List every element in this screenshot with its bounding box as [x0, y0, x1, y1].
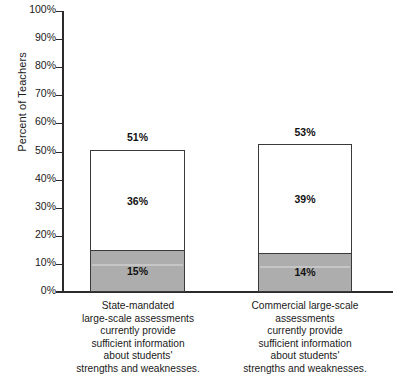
bar-segment-lower-1[interactable]: 15%: [90, 250, 185, 292]
x-category-label-2-line-5: about students': [219, 350, 391, 363]
bar-group-1[interactable]: 51% 36% 15%: [90, 0, 185, 300]
bar-chart: Percent of Teachers 100% 90% 80% 70% 60%…: [0, 0, 395, 379]
y-tick-label: 20%: [35, 228, 56, 240]
bar-segment-lower-2[interactable]: 14%: [258, 253, 352, 292]
x-category-label-1-line-3: currently provide: [52, 325, 224, 338]
bar-segment-upper-1[interactable]: 36%: [90, 150, 185, 251]
y-tick-mark: [56, 95, 62, 96]
x-category-label-2-line-3: currently provide: [219, 325, 391, 338]
y-tick-mark: [56, 123, 62, 124]
y-tick-mark: [56, 236, 62, 237]
y-tick-mark: [56, 208, 62, 209]
y-tick-label: 0%: [41, 284, 56, 296]
y-tick-mark: [56, 67, 62, 68]
y-axis-line: [62, 11, 64, 293]
x-category-label-1-line-2: large-scale assessments: [52, 313, 224, 326]
bar-total-label-1: 51%: [90, 131, 185, 143]
y-tick-label: 80%: [35, 59, 56, 71]
y-tick-label: 50%: [35, 144, 56, 156]
bar-segment-upper-2[interactable]: 39%: [258, 144, 352, 254]
bar-segment-label-upper-1: 36%: [91, 194, 184, 206]
y-tick-mark: [56, 264, 62, 265]
y-tick-mark: [56, 292, 62, 293]
x-category-label-2-line-1: Commercial large-scale: [219, 300, 391, 313]
x-category-label-2-line-2: assessments: [219, 313, 391, 326]
x-category-label-1-line-6: strengths and weaknesses.: [52, 363, 224, 376]
x-category-label-1-line-5: about students': [52, 350, 224, 363]
x-category-label-1-line-1: State-mandated: [52, 300, 224, 313]
y-tick-label: 90%: [35, 31, 56, 43]
x-category-label-2-line-6: strengths and weaknesses.: [219, 363, 391, 376]
x-category-label-2: Commercial large-scale assessments curre…: [219, 300, 391, 376]
bar-segment-label-lower-1: 15%: [91, 265, 184, 277]
y-tick-mark: [56, 11, 62, 12]
bar-stack-2[interactable]: 39% 14%: [258, 146, 352, 292]
bar-segment-label-upper-2: 39%: [259, 193, 351, 205]
x-category-label-1: State-mandated large-scale assessments c…: [52, 300, 224, 376]
y-tick-label: 100%: [29, 3, 56, 15]
bar-stack-1[interactable]: 36% 15%: [90, 151, 185, 292]
y-tick-label: 60%: [35, 115, 56, 127]
y-tick-mark: [56, 180, 62, 181]
bar-segment-label-lower-2: 14%: [259, 266, 351, 278]
y-tick-label: 30%: [35, 200, 56, 212]
bar-group-2[interactable]: 53% 39% 14%: [258, 0, 352, 300]
x-category-label-1-line-4: sufficient information: [52, 338, 224, 351]
y-tick-mark: [56, 152, 62, 153]
y-tick-label: 70%: [35, 87, 56, 99]
x-category-label-2-line-4: sufficient information: [219, 338, 391, 351]
plot-area: 100% 90% 80% 70% 60% 50% 40% 30%: [0, 0, 395, 300]
y-tick-mark: [56, 39, 62, 40]
y-tick-label: 10%: [35, 256, 56, 268]
bar-total-label-2: 53%: [258, 126, 352, 138]
y-tick-label: 40%: [35, 172, 56, 184]
